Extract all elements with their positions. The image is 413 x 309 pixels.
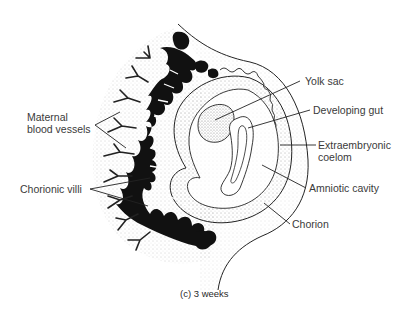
label-developing-gut: Developing gut	[313, 104, 383, 116]
label-text: Chorionic villi	[20, 183, 82, 195]
label-text: Extraembryonic	[318, 139, 391, 151]
label-extraembryonic-coelom: Extraembryonic coelom	[318, 139, 391, 163]
label-text: Chorion	[292, 218, 329, 230]
label-text: coelom	[318, 151, 391, 163]
label-text: Developing gut	[313, 104, 383, 116]
label-text: Amniotic cavity	[309, 182, 379, 194]
figure-caption: (c) 3 weeks	[180, 288, 229, 299]
label-yolk-sac: Yolk sac	[305, 75, 344, 87]
label-chorionic-villi: Chorionic villi	[20, 183, 82, 195]
label-amniotic-cavity: Amniotic cavity	[309, 182, 379, 194]
label-maternal-blood-vessels: Maternal blood vessels	[27, 111, 91, 135]
label-chorion: Chorion	[292, 218, 329, 230]
label-text: Maternal	[27, 111, 91, 123]
label-text: blood vessels	[27, 123, 91, 135]
label-text: Yolk sac	[305, 75, 344, 87]
